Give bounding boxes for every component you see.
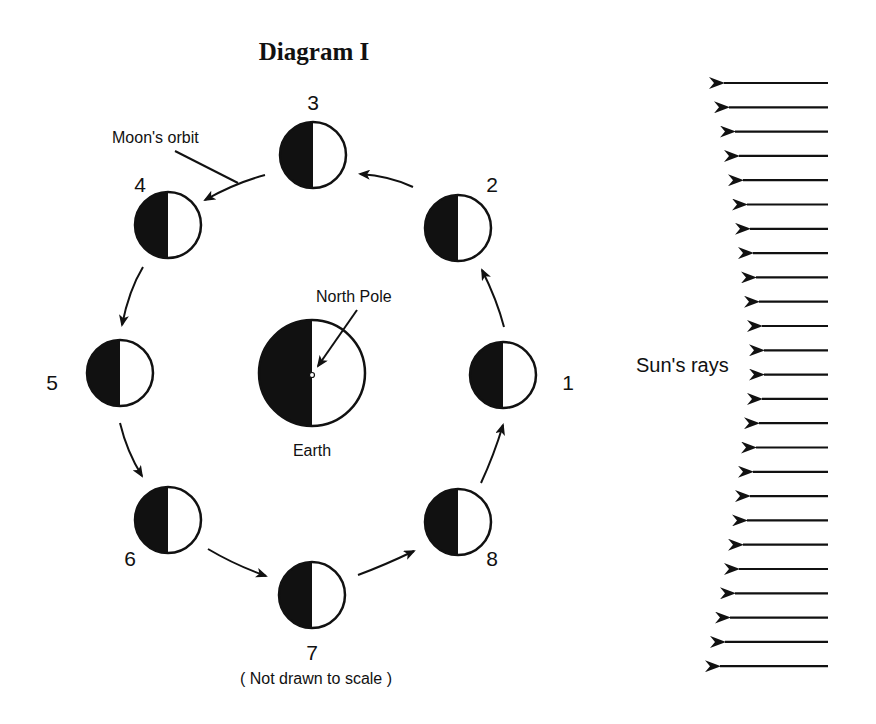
moon-2: 2 [425, 173, 498, 261]
moon-position-label: 2 [486, 173, 498, 196]
moon-dark-half [280, 122, 313, 188]
moon-7: 7 [279, 562, 345, 664]
diagram-title: Diagram I [259, 38, 369, 65]
not-to-scale-note: ( Not drawn to scale ) [240, 670, 392, 687]
earth [259, 320, 365, 426]
moon-3: 3 [280, 91, 346, 188]
moon-dark-half [279, 562, 312, 628]
orbit-arrow-1-2 [482, 270, 504, 327]
north-pole-label: North Pole [316, 288, 392, 305]
moon-dark-half [470, 342, 503, 408]
moon-dark-half [135, 192, 168, 258]
orbit-arrow-4-5 [122, 267, 143, 325]
moon-position-label: 8 [486, 547, 498, 570]
orbit-arrow-2-3 [360, 174, 413, 187]
earth-dark-half [259, 320, 312, 426]
moon-phases-diagram: Diagram I Moon's orbit 12345678 North Po… [0, 0, 876, 724]
moon-4: 4 [134, 173, 201, 258]
orbit-arrow-7-8 [358, 551, 414, 575]
sun-rays [720, 83, 828, 666]
moon-dark-half [135, 487, 168, 553]
moon-position-label: 6 [124, 547, 136, 570]
orbit-arrow-6-7 [208, 549, 266, 576]
moon-position-label: 4 [134, 173, 146, 196]
moons-orbit-label: Moon's orbit [112, 129, 199, 146]
orbit-arrow-8-1 [481, 425, 503, 483]
moon-position-label: 7 [306, 641, 318, 664]
moon-position-label: 3 [307, 91, 319, 114]
moon-dark-half [425, 489, 458, 555]
moon-dark-half [87, 340, 120, 406]
moon-position-label: 1 [562, 371, 574, 394]
suns-rays-label: Sun's rays [636, 354, 729, 376]
moon-6: 6 [124, 487, 201, 570]
moon-position-label: 5 [46, 371, 58, 394]
north-pole-dot [310, 373, 315, 378]
moons-orbit-leader-line [175, 151, 238, 183]
orbit-arrow-3-4 [205, 175, 265, 200]
moon-1: 1 [470, 342, 574, 408]
moon-dark-half [425, 195, 458, 261]
orbit-arrow-5-6 [120, 423, 142, 476]
moon-5: 5 [46, 340, 153, 406]
moon-8: 8 [425, 489, 498, 570]
earth-label: Earth [293, 442, 331, 459]
